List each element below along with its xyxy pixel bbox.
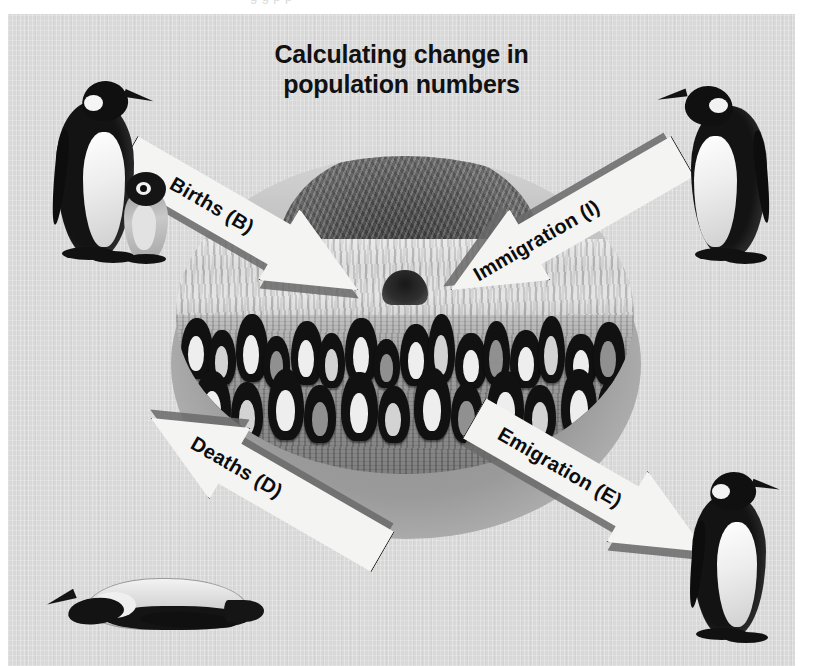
- penguin-cheek-patch: [712, 484, 730, 499]
- photo-ice-cave: [382, 270, 428, 305]
- penguin-feet-shadow: [723, 252, 767, 264]
- penguin-adult-body: [692, 494, 766, 636]
- penguin-belly: [694, 136, 737, 247]
- page-title-line-2: population numbers: [8, 70, 795, 100]
- slide-panel: Calculating change in population numbers: [8, 14, 795, 666]
- chick-feet: [126, 254, 166, 264]
- penguin-cheek-patch: [709, 98, 728, 113]
- chick-eye: [136, 182, 151, 195]
- penguin-adult-facing-right-illustration: [668, 452, 795, 652]
- penguin-belly: [83, 132, 125, 247]
- chick-belly: [132, 204, 156, 250]
- page-title: Calculating change in population numbers: [8, 40, 795, 99]
- penguin-feet-shadow: [724, 632, 768, 643]
- slide-page: g g p p Calculating change in population…: [0, 0, 821, 666]
- dead-penguin-tail: [224, 600, 264, 622]
- penguin-adult-body: [691, 106, 767, 256]
- page-title-line-1: Calculating change in: [8, 40, 795, 70]
- penguin-chick: [122, 164, 170, 260]
- top-ghost-text-strip: g g p p: [0, 0, 821, 13]
- ghost-text: g g p p: [250, 0, 293, 4]
- dead-penguin-illustration: [48, 570, 263, 654]
